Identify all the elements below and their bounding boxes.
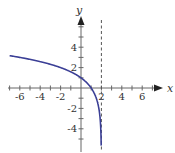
y-axis-label: y (75, 4, 83, 17)
y-tick-label: -4 (67, 123, 77, 134)
chart: -6-4-224642-2-4 x y (0, 0, 175, 153)
x-axis-arrow (154, 85, 163, 92)
y-tick-label: -2 (67, 103, 77, 114)
x-axis-label: x (167, 82, 174, 95)
x-tick-label: -4 (35, 91, 45, 102)
x-tick-label: 4 (119, 91, 125, 102)
x-tick-label: -6 (15, 91, 25, 102)
y-axis-arrow (78, 16, 85, 25)
x-tick-label: -2 (56, 91, 66, 102)
y-tick-label: 4 (71, 42, 77, 53)
x-tick-label: 6 (139, 91, 145, 102)
axes (8, 16, 163, 152)
